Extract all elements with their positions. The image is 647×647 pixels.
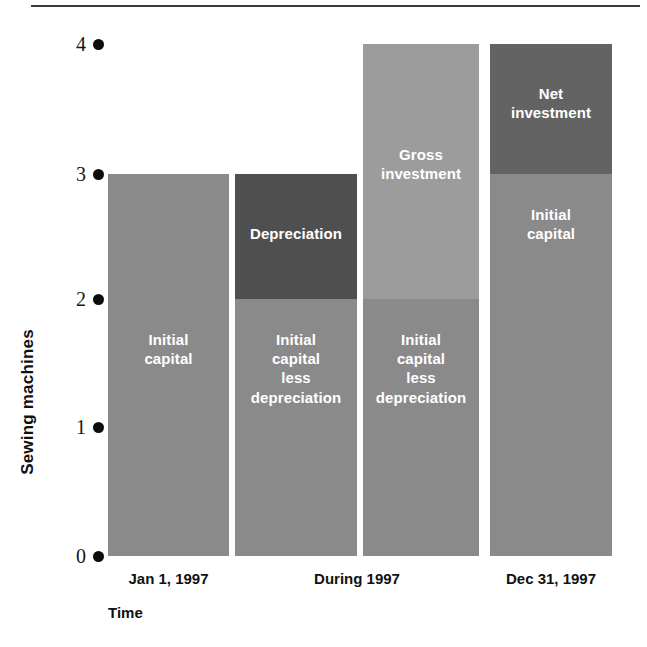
y-tick-dot-icon	[93, 39, 104, 50]
y-tick-label-0: 0	[76, 546, 86, 566]
y-tick-dot-icon	[93, 551, 104, 562]
y-tick-1: 1	[58, 416, 104, 438]
segment-gross-investment[interactable]: Gross investment	[363, 44, 479, 299]
segment-depreciation[interactable]: Depreciation	[235, 174, 357, 299]
top-rule-divider	[31, 5, 640, 7]
segment-initial-capital[interactable]: Initial capital	[490, 174, 612, 556]
segment-label: Depreciation	[246, 224, 346, 243]
segment-label: Initial capital less depreciation	[372, 330, 470, 407]
y-tick-3: 3	[58, 163, 104, 185]
x-tick-label-jan-1-1997: Jan 1, 1997	[108, 567, 229, 589]
y-tick-label-2: 2	[76, 289, 86, 309]
x-tick-label-during-1997: During 1997	[235, 567, 479, 589]
y-axis-title: Sewing machines	[15, 297, 41, 507]
bar-during-1997-gross-investment[interactable]: Gross investment Initial capital less de…	[363, 44, 479, 556]
chart-figure: Sewing machines 4 3 2 1 0 Initial capita…	[0, 0, 647, 647]
y-tick-label-4: 4	[76, 34, 86, 54]
y-tick-0: 0	[58, 545, 104, 567]
y-tick-dot-icon	[93, 294, 104, 305]
segment-label: Initial capital	[523, 205, 579, 243]
segment-initial-capital[interactable]: Initial capital	[108, 174, 229, 556]
y-tick-dot-icon	[93, 422, 104, 433]
y-tick-2: 2	[58, 288, 104, 310]
x-tick-label-dec-31-1997: Dec 31, 1997	[490, 567, 612, 589]
segment-label: Net investment	[507, 84, 595, 122]
bar-during-1997-depreciation[interactable]: Depreciation Initial capital less deprec…	[235, 174, 357, 556]
y-tick-4: 4	[58, 33, 104, 55]
segment-label: Gross investment	[377, 145, 465, 183]
bar-jan-1-1997[interactable]: Initial capital	[108, 174, 229, 556]
bar-dec-31-1997[interactable]: Net investment Initial capital	[490, 44, 612, 556]
y-tick-dot-icon	[93, 169, 104, 180]
x-axis-title: Time	[108, 601, 143, 623]
segment-label: Initial capital less depreciation	[247, 330, 345, 407]
segment-label: Initial capital	[140, 330, 196, 368]
segment-initial-capital-less-depreciation[interactable]: Initial capital less depreciation	[363, 299, 479, 556]
segment-initial-capital-less-depreciation[interactable]: Initial capital less depreciation	[235, 299, 357, 556]
y-tick-label-1: 1	[76, 417, 86, 437]
segment-net-investment[interactable]: Net investment	[490, 44, 612, 174]
y-tick-label-3: 3	[76, 164, 86, 184]
